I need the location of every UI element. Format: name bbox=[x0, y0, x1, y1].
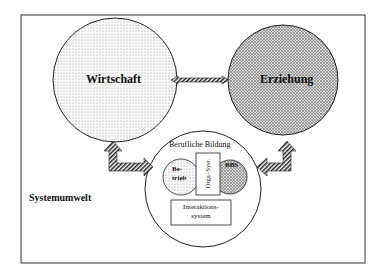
erziehung-label: Erziehung bbox=[260, 72, 313, 87]
right-bent-arrow-icon bbox=[257, 141, 296, 176]
berufliche-bildung-label: Berufliche Bildung bbox=[169, 140, 231, 149]
diagram-canvas bbox=[0, 0, 380, 278]
betrieb-label: Be- trieb bbox=[172, 165, 186, 183]
interaktionssystem-label-line2: system bbox=[171, 212, 231, 221]
betrieb-label-line1: Be- bbox=[172, 165, 186, 174]
double-arrow-icon bbox=[171, 76, 229, 84]
systemumwelt-label: Systemumwelt bbox=[29, 192, 91, 203]
bbs-label: BBS bbox=[225, 161, 238, 169]
betrieb-label-line2: trieb bbox=[172, 174, 186, 183]
interaktionssystem-label: Interaktions- system bbox=[171, 203, 231, 221]
wirtschaft-label: Wirtschaft bbox=[86, 72, 141, 87]
orga-syst-label: Orga.-Syst. bbox=[204, 154, 211, 194]
interaktionssystem-label-line1: Interaktions- bbox=[171, 203, 231, 212]
left-bent-arrow-icon bbox=[104, 141, 153, 176]
